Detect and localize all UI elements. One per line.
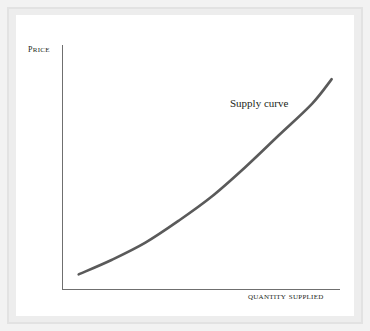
supply-curve-plot xyxy=(16,15,354,316)
plot-area: Price Quantity supplied Supply curve xyxy=(16,15,354,316)
supply-curve-line xyxy=(79,79,332,274)
figure-panel: Price Quantity supplied Supply curve xyxy=(16,15,354,316)
figure-container: Price Quantity supplied Supply curve xyxy=(0,0,370,331)
